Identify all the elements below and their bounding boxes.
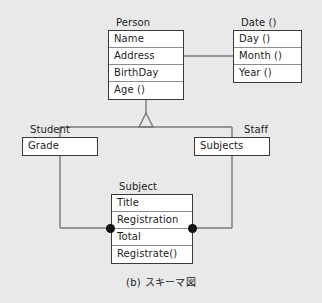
association-endpoint-dot-left bbox=[106, 224, 115, 233]
class-student-body: Grade bbox=[22, 137, 98, 156]
class-person-body: Name Address BirthDay Age () bbox=[108, 30, 184, 100]
class-date-title: Date () bbox=[241, 16, 277, 30]
generalization-triangle bbox=[139, 113, 153, 127]
class-staff-title: Staff bbox=[244, 123, 268, 137]
class-subject[interactable]: Subject Title Registration Total Registr… bbox=[111, 194, 193, 264]
class-staff[interactable]: Staff Subjects bbox=[194, 137, 270, 156]
attribute-row[interactable]: Subjects bbox=[195, 138, 269, 155]
class-staff-body: Subjects bbox=[194, 137, 270, 156]
attribute-row[interactable]: Registrate() bbox=[112, 246, 192, 263]
class-subject-title: Subject bbox=[119, 180, 157, 194]
attribute-row[interactable]: Address bbox=[109, 48, 183, 65]
attribute-row[interactable]: Total bbox=[112, 229, 192, 246]
attribute-row[interactable]: Year () bbox=[234, 65, 301, 82]
class-student[interactable]: Student Grade bbox=[22, 137, 98, 156]
attribute-row[interactable]: Month () bbox=[234, 48, 301, 65]
association-endpoint-dot-right bbox=[188, 224, 197, 233]
figure-caption: (b) スキーマ図 bbox=[0, 274, 322, 289]
attribute-row[interactable]: Grade bbox=[23, 138, 97, 155]
attribute-row[interactable]: Age () bbox=[109, 82, 183, 99]
class-person-title: Person bbox=[116, 16, 150, 30]
attribute-row[interactable]: Day () bbox=[234, 31, 301, 48]
attribute-row[interactable]: Registration bbox=[112, 212, 192, 229]
attribute-row[interactable]: Title bbox=[112, 195, 192, 212]
class-student-title: Student bbox=[30, 123, 70, 137]
class-subject-body: Title Registration Total Registrate() bbox=[111, 194, 193, 264]
class-date-body: Day () Month () Year () bbox=[233, 30, 302, 83]
attribute-row[interactable]: Name bbox=[109, 31, 183, 48]
schema-diagram-canvas: Person Name Address BirthDay Age () Date… bbox=[0, 0, 322, 303]
class-date[interactable]: Date () Day () Month () Year () bbox=[233, 30, 302, 83]
attribute-row[interactable]: BirthDay bbox=[109, 65, 183, 82]
class-person[interactable]: Person Name Address BirthDay Age () bbox=[108, 30, 184, 100]
